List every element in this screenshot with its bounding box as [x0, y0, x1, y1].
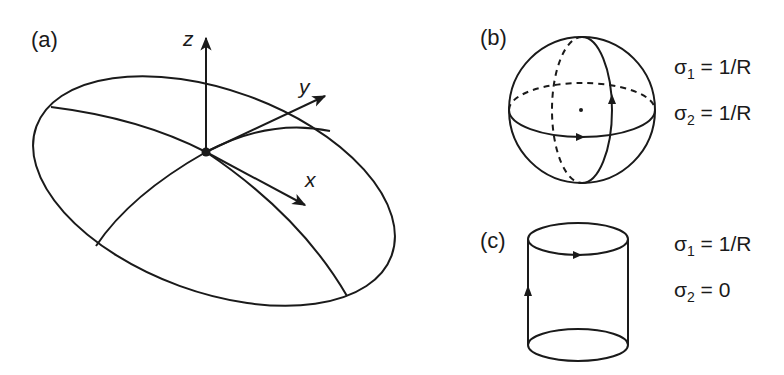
surface-curve-lower-right — [206, 152, 347, 296]
surface-outline — [2, 31, 426, 350]
x-axis-arrow — [206, 152, 305, 205]
sigma-subscript: 2 — [687, 112, 695, 128]
sphere-equator-back — [509, 83, 655, 110]
sigma-subscript: 1 — [687, 243, 695, 259]
meridian-direction-arrow — [608, 94, 616, 104]
sphere-meridian-back — [552, 37, 582, 183]
sphere-sigma2-equation: σ2 = 1/R — [674, 101, 751, 128]
sigma-subscript: 2 — [687, 289, 695, 305]
y-axis-label: y — [299, 75, 310, 99]
sphere-center-dot — [579, 108, 583, 112]
sigma-symbol: σ — [674, 278, 687, 301]
cylinder-bottom — [528, 329, 628, 361]
panel-a-surface — [2, 31, 426, 350]
equation-rhs: = 1/R — [695, 55, 752, 78]
panel-b-label: (b) — [480, 25, 507, 51]
sigma-symbol: σ — [674, 55, 687, 78]
panel-c-label: (c) — [480, 228, 506, 254]
x-axis-label: x — [305, 168, 316, 192]
equation-rhs: = 1/R — [695, 101, 752, 124]
figure-canvas — [0, 0, 784, 375]
cylinder-top — [528, 223, 628, 255]
sigma-symbol: σ — [674, 232, 687, 255]
surface-curve-right — [206, 127, 330, 152]
cylinder-circumference-arrow — [573, 251, 582, 259]
panel-a-label: (a) — [31, 27, 58, 53]
sphere-equator-front — [509, 110, 655, 137]
surface-curve-left — [51, 107, 206, 152]
z-axis-label: z — [183, 27, 194, 51]
equator-direction-arrow — [576, 133, 585, 141]
sphere-meridian-front — [582, 37, 612, 183]
cylinder-axial-arrow — [524, 285, 532, 296]
equation-rhs: = 0 — [695, 278, 731, 301]
origin-point — [202, 148, 211, 157]
cylinder-sigma2-equation: σ2 = 0 — [674, 278, 730, 305]
cylinder-sigma1-equation: σ1 = 1/R — [674, 232, 751, 259]
surface-curve-lower-left — [96, 152, 206, 246]
panel-c-cylinder — [528, 223, 628, 361]
sphere-sigma1-equation: σ1 = 1/R — [674, 55, 751, 82]
equation-rhs: = 1/R — [695, 232, 752, 255]
sigma-subscript: 1 — [687, 66, 695, 82]
sigma-symbol: σ — [674, 101, 687, 124]
